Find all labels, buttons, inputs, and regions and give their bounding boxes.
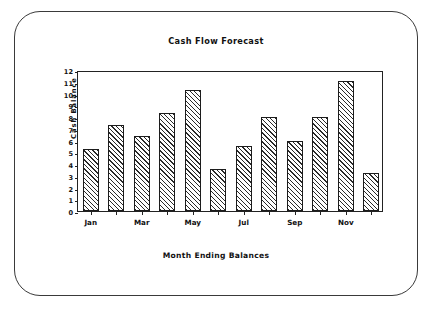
x-tick-mark <box>116 211 117 215</box>
y-tick-label: 9 <box>68 104 73 111</box>
y-tick-label: 4 <box>68 163 73 170</box>
bar <box>134 136 150 211</box>
y-tick-mark <box>75 213 79 214</box>
x-tick-mark <box>142 211 143 215</box>
screenshot-canvas: Cash Flow Forecast Cash Balance (Thousan… <box>0 0 432 312</box>
y-tick-mark <box>75 131 79 132</box>
bar <box>287 141 303 212</box>
x-tick-label: Mar <box>134 218 150 227</box>
bar <box>159 113 175 211</box>
y-tick-mark <box>75 84 79 85</box>
x-tick-mark <box>91 211 92 215</box>
y-tick-mark <box>75 166 79 167</box>
x-tick-mark <box>244 211 245 215</box>
bar <box>108 125 124 211</box>
bar <box>185 90 201 211</box>
y-tick-mark <box>75 201 79 202</box>
y-tick-label: 6 <box>68 139 73 146</box>
x-tick-mark <box>371 211 372 215</box>
bar <box>236 146 252 211</box>
y-tick-label: 3 <box>68 174 73 181</box>
x-tick-mark <box>193 211 194 215</box>
bar <box>312 117 328 211</box>
x-tick-mark <box>218 211 219 215</box>
y-tick-mark <box>75 96 79 97</box>
y-tick-mark <box>75 143 79 144</box>
y-tick-label: 0 <box>68 210 73 217</box>
bar <box>363 173 379 211</box>
plot-area: 0123456789101112JanMarMayJulSepNov <box>77 71 383 212</box>
x-tick-label: Nov <box>338 218 354 227</box>
x-tick-label: May <box>185 218 201 227</box>
y-tick-label: 10 <box>64 92 73 99</box>
y-tick-mark <box>75 72 79 73</box>
y-tick-mark <box>75 119 79 120</box>
y-tick-mark <box>75 107 79 108</box>
x-tick-mark <box>167 211 168 215</box>
y-tick-label: 1 <box>68 198 73 205</box>
x-tick-label: Jul <box>239 218 249 227</box>
x-tick-label: Jan <box>84 218 97 227</box>
plot-inner <box>78 72 382 211</box>
y-tick-mark <box>75 178 79 179</box>
y-tick-mark <box>75 154 79 155</box>
y-tick-label: 5 <box>68 151 73 158</box>
bar <box>338 81 354 211</box>
bar <box>83 149 99 211</box>
y-tick-label: 12 <box>64 69 73 76</box>
chart-title: Cash Flow Forecast <box>0 36 432 46</box>
x-tick-mark <box>320 211 321 215</box>
y-tick-label: 2 <box>68 186 73 193</box>
bar <box>210 169 226 211</box>
y-tick-label: 11 <box>64 80 73 87</box>
bar <box>261 117 277 211</box>
y-tick-label: 7 <box>68 127 73 134</box>
x-tick-mark <box>346 211 347 215</box>
y-tick-label: 8 <box>68 116 73 123</box>
x-tick-label: Sep <box>287 218 302 227</box>
bar-chart: Cash Flow Forecast Cash Balance (Thousan… <box>0 0 432 312</box>
x-tick-mark <box>295 211 296 215</box>
x-axis-title: Month Ending Balances <box>0 251 432 260</box>
x-tick-mark <box>269 211 270 215</box>
y-tick-mark <box>75 190 79 191</box>
